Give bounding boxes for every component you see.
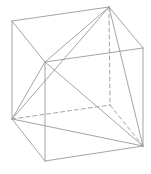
- cube-edge-HG: [45, 146, 143, 161]
- hidden-edge-BF: [109, 7, 110, 105]
- cube-edge-CD: [45, 48, 143, 62]
- cube-edge-DA: [12, 21, 45, 62]
- tetra-edge-DE: [12, 62, 45, 119]
- edge-group: [12, 7, 143, 161]
- tetra-edge-EG: [12, 119, 143, 146]
- hidden-edge-EF: [12, 105, 110, 119]
- cube-tetrahedron-diagram: [0, 0, 151, 174]
- cube-edge-AB: [12, 7, 109, 21]
- tetra-edge-BE: [12, 7, 109, 119]
- tetra-edge-DG: [45, 62, 143, 146]
- cube-edge-EH: [12, 119, 45, 161]
